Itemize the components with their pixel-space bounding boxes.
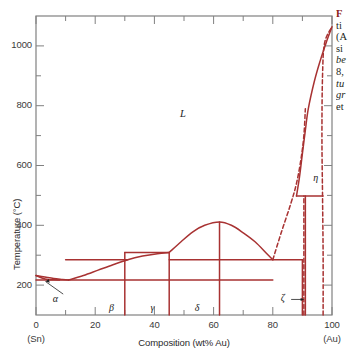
y-axis-tick-400: 400	[2, 219, 32, 230]
caption-line-5: 8,	[336, 66, 352, 78]
x-axis-left-endpoint-label: (Sn)	[19, 333, 53, 344]
caption-line-0: F	[336, 8, 352, 20]
x-axis-title: Composition (wt% Au)	[84, 337, 284, 348]
plot-frame	[36, 16, 332, 315]
caption-line-1: ti	[336, 20, 352, 32]
x-axis-tick-0: 0	[19, 319, 53, 330]
label-leader-lines	[46, 279, 305, 301]
x-axis-tick-80: 80	[256, 319, 290, 330]
x-axis-tick-60: 60	[197, 319, 231, 330]
caption-line-3: si	[336, 43, 352, 55]
y-axis-tick-1000: 1000	[2, 39, 32, 50]
phase-diagram-figure: Temperature (°C) 2004006008001000 020406…	[0, 0, 352, 355]
axis-ticks	[36, 16, 332, 315]
y-axis-title: Temperature (°C)	[11, 199, 22, 270]
phase-label-beta: β	[109, 302, 114, 313]
x-axis-tick-40: 40	[137, 319, 171, 330]
caption-line-4: be	[336, 54, 352, 66]
x-axis-right-endpoint-label: (Au)	[315, 333, 349, 344]
caption-line-8: et	[336, 101, 352, 112]
x-axis-tick-100: 100	[315, 319, 349, 330]
phase-label-liquid: L	[180, 108, 186, 119]
caption-line-7: gr	[336, 89, 352, 101]
phase-label-eta: η	[313, 172, 318, 183]
phase-label-zeta: ζ	[281, 292, 285, 303]
phase-boundary-lines	[36, 27, 332, 315]
y-axis-tick-800: 800	[2, 99, 32, 110]
phase-label-gamma: γ	[150, 302, 154, 313]
y-axis-tick-600: 600	[2, 159, 32, 170]
caption-line-2: (A	[336, 31, 352, 43]
phase-label-alpha: α	[53, 293, 58, 304]
phase-label-delta: δ	[195, 302, 200, 313]
x-axis-tick-20: 20	[78, 319, 112, 330]
caption-line-6: tu	[336, 78, 352, 90]
figure-caption: Fti(Asibe8,tugretP.	[336, 8, 352, 112]
y-axis-tick-200: 200	[2, 279, 32, 290]
